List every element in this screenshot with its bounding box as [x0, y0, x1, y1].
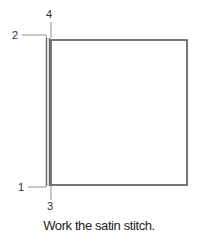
leader-1 [28, 184, 47, 187]
point-label-1: 1 [18, 182, 24, 193]
point-label-4: 4 [46, 9, 52, 20]
point-label-2: 2 [12, 30, 18, 41]
caption: Work the satin stitch. [0, 218, 198, 233]
leader-2 [22, 35, 47, 39]
satin-stitch-diagram [0, 0, 198, 242]
fabric-square [51, 40, 187, 185]
point-label-3: 3 [47, 201, 53, 212]
